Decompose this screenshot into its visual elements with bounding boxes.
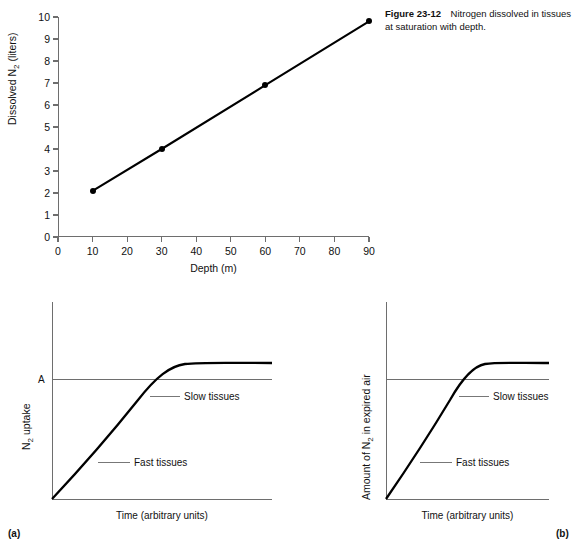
x-tick-mark	[334, 237, 335, 242]
panel-b-slow-tissues-label: Slow tissues	[493, 391, 549, 402]
panel-a-slow-leader-line	[150, 396, 180, 397]
panel-a-asymptote-label: A	[38, 374, 45, 385]
x-tick-mark	[265, 237, 266, 242]
panel-a-tag: (a)	[8, 528, 20, 539]
y-tick-label: 4	[44, 143, 50, 155]
panel-b-fast-tissues-label: Fast tissues	[456, 457, 509, 468]
y-tick-label: 1	[44, 209, 50, 221]
panel-b-fast-leader-line	[420, 462, 452, 463]
y-axis-label-subscript: 2	[12, 65, 21, 69]
panel-b-y-label-pre: Amount of N	[360, 442, 372, 500]
panel-b-tag: (b)	[556, 528, 569, 539]
panel-a-y-axis-label: N2 uptake	[20, 404, 35, 451]
panel-a-slow-tissues-label: Slow tissues	[184, 391, 240, 402]
x-tick-mark	[299, 237, 300, 242]
x-tick-mark	[196, 237, 197, 242]
panel-b-slow-leader-line	[459, 396, 489, 397]
x-tick-label: 30	[156, 245, 168, 257]
x-tick-label: 50	[225, 245, 237, 257]
y-tick-label: 3	[44, 165, 50, 177]
y-tick-label: 6	[44, 99, 50, 111]
panel-b-y-label-subscript: 2	[366, 437, 375, 441]
x-tick-label: 70	[294, 245, 306, 257]
panel-a-y-label-pre: N	[20, 442, 32, 450]
y-tick-label: 9	[44, 33, 50, 45]
y-tick-label: 2	[44, 187, 50, 199]
x-tick-mark	[230, 237, 231, 242]
panel-b-x-axis-label: Time (arbitrary units)	[386, 510, 549, 521]
x-tick-mark	[368, 237, 369, 242]
x-tick-label: 80	[329, 245, 341, 257]
chart-nitrogen-vs-depth: Dissolved N2 (liters) 012345678910 01020…	[0, 0, 400, 285]
top-chart-data-line	[58, 17, 369, 237]
y-tick-label: 10	[38, 11, 50, 23]
top-chart-x-axis-label: Depth (m)	[58, 262, 369, 274]
x-tick-mark	[161, 237, 162, 242]
panel-a-y-label-subscript: 2	[26, 438, 35, 442]
y-tick-label: 7	[44, 77, 50, 89]
y-tick-label: 8	[44, 55, 50, 67]
panel-a-plot-area: A Slow tissues Fast tissues	[52, 302, 272, 500]
x-tick-label: 20	[121, 245, 133, 257]
x-tick-label: 40	[190, 245, 202, 257]
x-tick-label: 60	[259, 245, 271, 257]
figure-caption: Figure 23-12 Nitrogen dissolved in tissu…	[385, 8, 571, 33]
top-chart-plot-area: 012345678910 0102030405060708090	[58, 17, 369, 237]
panel-b-y-axis-label: Amount of N2 in expired air	[360, 374, 375, 500]
x-tick-mark	[92, 237, 93, 242]
x-tick-label: 0	[55, 245, 61, 257]
data-point-marker	[159, 146, 165, 152]
chart-n2-uptake-panel-a: N2 uptake A Slow tissues Fast tissues Ti…	[0, 300, 278, 543]
data-point-marker	[262, 82, 268, 88]
data-point-marker	[366, 18, 372, 24]
top-chart-y-axis-label: Dissolved N2 (liters)	[6, 32, 21, 125]
x-tick-mark	[57, 237, 58, 242]
y-tick-label: 5	[44, 121, 50, 133]
panel-b-plot-area: Slow tissues Fast tissues	[386, 302, 549, 500]
x-tick-label: 90	[363, 245, 375, 257]
panel-b-y-label-post: in expired air	[360, 374, 372, 437]
x-tick-label: 10	[87, 245, 99, 257]
panel-a-fast-tissues-label: Fast tissues	[134, 457, 187, 468]
data-point-marker	[90, 188, 96, 194]
y-tick-label: 0	[44, 231, 50, 243]
y-axis-label-pre: Dissolved N	[6, 69, 18, 125]
panel-a-x-axis-label: Time (arbitrary units)	[52, 510, 272, 521]
x-tick-mark	[127, 237, 128, 242]
panel-a-y-label-post: uptake	[20, 404, 32, 438]
panel-a-fast-leader-line	[98, 462, 130, 463]
chart-n2-expired-panel-b: Amount of N2 in expired air Slow tissues…	[274, 300, 552, 543]
y-axis-label-post: (liters)	[6, 32, 18, 64]
